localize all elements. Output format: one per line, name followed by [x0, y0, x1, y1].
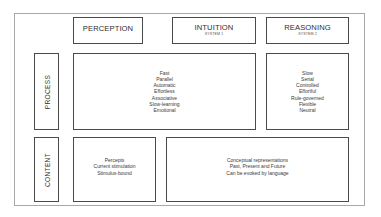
reasoning-subtitle: SYSTEM 2	[298, 32, 317, 37]
content-perception-box: Percepts Current stimulation Stimulus-bo…	[73, 137, 156, 202]
list-item: Rule-governed	[291, 95, 324, 101]
process-perception-intuition-list: Fast Parallel Automatic Effortless Assoc…	[149, 70, 179, 113]
list-item: Stimulus-bound	[94, 170, 136, 176]
list-item: Can be evoked by language	[226, 170, 288, 176]
perception-header: PERCEPTION	[73, 17, 143, 44]
list-item: Emotional	[149, 107, 179, 113]
reasoning-header: REASONING SYSTEM 2	[266, 17, 349, 44]
process-reasoning-box: Slow Serial Controlled Effortful Rule-go…	[266, 53, 349, 130]
process-label-text: PROCESS	[43, 74, 50, 108]
content-perception-list: Percepts Current stimulation Stimulus-bo…	[94, 157, 136, 175]
intuition-header: INTUITION SYSTEM 1	[172, 17, 256, 44]
list-item: Associative	[149, 95, 179, 101]
content-row-label: CONTENT	[34, 137, 59, 202]
intuition-title: INTUITION	[195, 23, 234, 32]
list-item: Past, Present and Future	[226, 163, 288, 169]
list-item: Slow-learning	[149, 101, 179, 107]
process-perception-intuition-box: Fast Parallel Automatic Effortless Assoc…	[73, 53, 256, 130]
process-reasoning-list: Slow Serial Controlled Effortful Rule-go…	[291, 70, 324, 113]
content-label-text: CONTENT	[43, 153, 50, 187]
content-intuition-reasoning-list: Conceptual representations Past, Present…	[226, 157, 288, 175]
intuition-subtitle: SYSTEM 1	[205, 32, 224, 37]
content-intuition-reasoning-box: Conceptual representations Past, Present…	[166, 137, 349, 202]
list-item: Neutral	[291, 107, 324, 113]
process-row-label: PROCESS	[34, 53, 59, 130]
reasoning-title: REASONING	[284, 23, 330, 32]
perception-title: PERCEPTION	[83, 24, 133, 33]
list-item: Current stimulation	[94, 163, 136, 169]
